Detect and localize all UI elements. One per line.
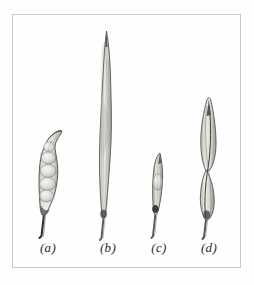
specimen-b-base-node bbox=[100, 210, 107, 218]
specimen-a bbox=[39, 131, 62, 238]
specimen-label-d: (d) bbox=[189, 240, 229, 256]
specimen-a-seed-4 bbox=[39, 190, 53, 202]
specimen-c-base-node-fill bbox=[152, 205, 158, 213]
specimen-label-b: (b) bbox=[88, 240, 128, 256]
specimen-a-seed-1 bbox=[41, 152, 55, 164]
specimen-d-base-node bbox=[203, 211, 210, 220]
specimen-b bbox=[99, 31, 111, 240]
specimen-a-seed-3 bbox=[39, 177, 55, 190]
specimen-d bbox=[200, 98, 216, 239]
specimen-label-a: (a) bbox=[28, 240, 68, 256]
botanical-plate: (a) (b) (c) (d) bbox=[0, 0, 254, 285]
specimen-a-seed-2 bbox=[40, 164, 56, 177]
specimen-label-c: (c) bbox=[139, 240, 179, 256]
specimen-c-seed-bulge bbox=[153, 174, 162, 190]
specimen-c bbox=[152, 153, 163, 238]
